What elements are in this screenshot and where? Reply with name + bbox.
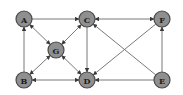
edge-a-g: [30, 25, 51, 45]
edge-g-b: [30, 55, 50, 74]
node-e: E: [154, 72, 170, 88]
directed-graph: ACFGBDE: [0, 0, 183, 95]
node-a: A: [16, 11, 32, 27]
node-d: D: [79, 72, 95, 88]
node-label: A: [20, 15, 28, 25]
node-f: F: [154, 11, 170, 27]
node-label: F: [159, 15, 165, 25]
edge-g-c: [62, 25, 82, 45]
node-c: C: [79, 11, 95, 27]
node-b: B: [16, 72, 32, 88]
node-label: D: [84, 76, 91, 86]
node-label: C: [84, 15, 90, 25]
node-g: G: [48, 42, 64, 58]
edge-g-d: [62, 56, 82, 75]
edges-layer: [24, 19, 162, 80]
node-label: B: [21, 76, 28, 86]
node-label: E: [159, 76, 165, 86]
nodes-layer: ACFGBDE: [16, 11, 170, 88]
node-label: G: [53, 46, 60, 56]
